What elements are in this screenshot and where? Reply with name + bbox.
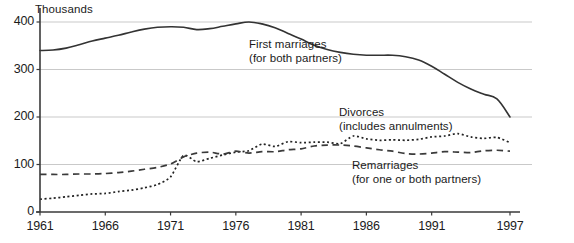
y-axis-label-200: 200 xyxy=(0,109,34,124)
x-axis-label-1971: 1971 xyxy=(148,219,194,234)
marriages-divorces-chart: Thousands 0100200300400 1961196619711976… xyxy=(0,0,574,243)
first-marriages-annotation-title: First marriages xyxy=(249,38,326,50)
first-marriages-annotation: First marriages(for both partners) xyxy=(249,38,342,65)
x-axis-label-1981: 1981 xyxy=(278,219,324,234)
y-axis-label-300: 300 xyxy=(0,62,34,77)
first-marriages-annotation-qualifier: (for both partners) xyxy=(249,52,342,66)
x-axis-label-1976: 1976 xyxy=(213,219,259,234)
y-axis-label-400: 400 xyxy=(0,14,34,29)
divorces-annotation-title: Divorces xyxy=(339,106,384,118)
y-axis-label-0: 0 xyxy=(0,204,34,219)
remarriages-annotation: Remarriages(for one or both partners) xyxy=(352,159,481,186)
y-axis-units-label: Thousands xyxy=(35,3,93,17)
y-axis-label-100: 100 xyxy=(0,157,34,172)
x-axis-label-1997: 1997 xyxy=(487,219,533,234)
x-axis-label-1986: 1986 xyxy=(343,219,389,234)
x-axis-label-1991: 1991 xyxy=(409,219,455,234)
chart-plot-area xyxy=(0,0,574,243)
x-axis-label-1966: 1966 xyxy=(82,219,128,234)
remarriages-annotation-title: Remarriages xyxy=(352,159,418,171)
remarriages-annotation-qualifier: (for one or both partners) xyxy=(352,173,481,187)
divorces-annotation: Divorces(includes annulments) xyxy=(339,106,453,133)
x-axis-label-1961: 1961 xyxy=(17,219,63,234)
divorces-annotation-qualifier: (includes annulments) xyxy=(339,120,453,134)
